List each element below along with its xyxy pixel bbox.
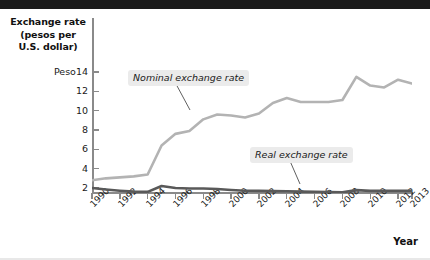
annotation-nominal-exchange-rate: Nominal exchange rate: [128, 70, 249, 86]
chart-figure: Exchange rate (pesos per U.S. dollar) 24…: [0, 0, 430, 260]
y-tick-label-6: 6: [82, 143, 88, 154]
y-tick-label-12: 12: [76, 85, 88, 96]
y-tick-label-8: 8: [82, 124, 88, 135]
x-axis-title: Year: [393, 236, 418, 247]
y-tick-label-10: 10: [76, 105, 88, 116]
y-axis-tick-labels: 24681012Peso14: [0, 0, 88, 260]
series-line-real-exchange-rate: [92, 186, 412, 192]
y-tick-label-4: 4: [82, 163, 88, 174]
series-line-nominal-exchange-rate: [92, 77, 412, 180]
y-tick-label-2: 2: [82, 182, 88, 193]
annotation-real-exchange-rate: Real exchange rate: [250, 147, 353, 163]
y-tick-label-14: Peso14: [54, 66, 88, 77]
plot-area: [92, 18, 412, 193]
